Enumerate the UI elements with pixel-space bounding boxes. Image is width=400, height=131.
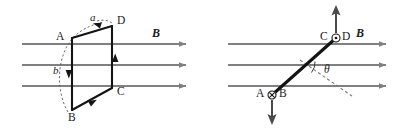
- conductor-end-label-B: B: [279, 88, 287, 100]
- force-arrow-up-group: [331, 5, 340, 33]
- panel-left-current-loop: A D C B a b B: [0, 0, 200, 131]
- circle-dot-icon: [332, 34, 340, 42]
- conductor-end-label-C: C: [320, 31, 328, 43]
- loop-edge-CB: [72, 88, 112, 110]
- current-arrowheads-group: [66, 20, 119, 106]
- field-lines-group-left: [22, 44, 186, 86]
- loop-edge-AD: [72, 26, 112, 38]
- physics-figure-canvas: A D C B a b B: [0, 0, 400, 131]
- panel-right-tilted-conductor: C D A B θ B: [200, 0, 400, 131]
- field-label-B-right: B: [356, 27, 364, 39]
- annotation-label-b: b: [53, 65, 59, 76]
- conductor-end-label-A: A: [256, 88, 264, 100]
- force-arrow-down-group: [267, 100, 276, 125]
- right-diagram-svg: [200, 0, 400, 131]
- dashed-rotation-arrow-a: [97, 20, 112, 23]
- left-diagram-svg: [0, 0, 200, 131]
- annotation-label-a: a: [90, 12, 96, 23]
- circle-cross-icon: [268, 91, 276, 99]
- vertex-label-D: D: [117, 15, 125, 27]
- current-loop-group: [72, 26, 112, 110]
- conductor-end-label-D: D: [342, 31, 350, 43]
- angle-label-theta: θ: [324, 64, 330, 76]
- angle-arc-theta: [312, 62, 316, 73]
- vertex-label-B: B: [68, 112, 76, 124]
- vertex-label-A: A: [56, 31, 64, 43]
- field-label-B-left: B: [152, 27, 160, 39]
- vertex-label-C: C: [117, 86, 125, 98]
